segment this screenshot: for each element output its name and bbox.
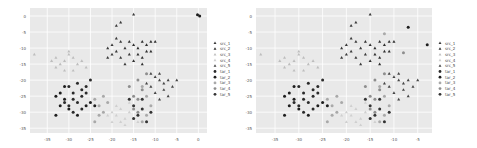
- data-point-tar_4: [141, 88, 144, 91]
- data-point-tar_1: [76, 82, 79, 85]
- data-point-tar_4: [369, 95, 372, 98]
- data-point-tar_1: [80, 88, 83, 91]
- data-point-tar_4: [373, 111, 376, 114]
- data-point-tar_2: [293, 98, 296, 101]
- data-point-tar_5: [383, 120, 386, 123]
- data-point-tar_1: [76, 101, 79, 104]
- data-point-tar_3: [383, 32, 386, 35]
- data-point-tar_2: [283, 95, 286, 98]
- legend-label-src_1: src_1: [445, 41, 456, 46]
- scatter-chart-right: -35-30-25-20-15-10-50-5-10-15-20-25-30-3…: [240, 0, 477, 148]
- data-point-tar_3: [326, 98, 329, 101]
- legend-marker-src_4: [439, 59, 442, 62]
- y-tick-label: -25: [19, 94, 26, 99]
- legend-marker-tar_4: [214, 87, 217, 90]
- x-tick-label: -20: [343, 137, 350, 142]
- data-point-tar_1: [321, 79, 324, 82]
- x-tick-label: -35: [44, 137, 51, 142]
- x-tick-label: -10: [152, 137, 159, 142]
- data-point-tar_4: [378, 88, 381, 91]
- legend-label-tar_5: tar_5: [445, 92, 456, 97]
- data-point-tar_1: [67, 85, 70, 88]
- data-point-tar_4: [145, 72, 148, 75]
- data-point-tar_5: [378, 98, 381, 101]
- data-point-tar_5: [132, 117, 135, 120]
- data-point-tar_1: [316, 85, 319, 88]
- legend-label-src_4: src_4: [220, 58, 231, 63]
- data-point-tar_4: [136, 98, 139, 101]
- data-point-tar_3: [331, 114, 334, 117]
- legend-marker-tar_5: [439, 93, 442, 96]
- data-point-tar_1: [67, 104, 70, 107]
- data-point-tar_2: [297, 107, 300, 110]
- data-point-tar_1: [63, 101, 66, 104]
- legend-label-src_2: src_2: [445, 46, 456, 51]
- data-point-tar_2: [321, 101, 324, 104]
- data-point-tar_3: [93, 98, 96, 101]
- data-point-tar_2: [85, 104, 88, 107]
- x-tick-label: -30: [296, 137, 303, 142]
- legend-label-tar_2: tar_2: [445, 75, 456, 80]
- y-tick-label: -35: [19, 126, 26, 131]
- x-tick-label: -10: [391, 137, 398, 142]
- data-point-tar_2: [76, 114, 79, 117]
- data-point-tar_3: [141, 85, 144, 88]
- data-point-tar_5: [369, 117, 372, 120]
- data-point-tar_1: [302, 91, 305, 94]
- legend: src_1src_2src_3src_4src_5tar_1tar_2tar_3…: [214, 41, 231, 97]
- data-point-tar_2: [407, 26, 410, 29]
- y-tick-label: -5: [248, 30, 252, 35]
- x-tick-label: -20: [109, 137, 116, 142]
- legend-label-tar_2: tar_2: [220, 75, 231, 80]
- data-point-tar_4: [373, 98, 376, 101]
- data-point-tar_3: [326, 120, 329, 123]
- data-point-tar_2: [63, 85, 66, 88]
- data-point-tar_5: [141, 107, 144, 110]
- data-point-tar_1: [297, 85, 300, 88]
- legend-label-src_4: src_4: [445, 58, 456, 63]
- legend-marker-tar_5: [214, 93, 217, 96]
- data-point-tar_5: [378, 107, 381, 110]
- legend-label-tar_1: tar_1: [220, 69, 231, 74]
- y-tick-label: -30: [19, 110, 26, 115]
- data-point-tar_1: [307, 101, 310, 104]
- x-tick-label: -25: [87, 137, 94, 142]
- legend-marker-src_3: [214, 53, 217, 56]
- scatter-plot-left-svg: -35-30-25-20-15-10-500-5-10-15-20-25-30-…: [0, 0, 240, 148]
- data-point-tar_3: [98, 104, 101, 107]
- legend-label-src_5: src_5: [220, 63, 231, 68]
- x-tick-label: -15: [367, 137, 374, 142]
- y-tick-label: 0: [23, 14, 26, 19]
- data-point-tar_5: [388, 111, 391, 114]
- data-point-tar_1: [80, 107, 83, 110]
- x-tick-label: -25: [319, 137, 326, 142]
- data-point-tar_2: [198, 15, 201, 18]
- data-point-tar_3: [102, 111, 105, 114]
- legend-marker-src_5: [214, 64, 217, 67]
- legend-marker-tar_2: [439, 76, 442, 79]
- legend: src_1src_2src_3src_4src_5tar_1tar_2tar_3…: [439, 41, 456, 97]
- data-point-tar_2: [89, 101, 92, 104]
- data-point-tar_4: [132, 107, 135, 110]
- data-point-tar_4: [136, 79, 139, 82]
- data-point-tar_3: [340, 101, 343, 104]
- data-point-tar_5: [132, 104, 135, 107]
- data-point-tar_2: [426, 43, 429, 46]
- x-tick-label: -5: [416, 137, 420, 142]
- legend-marker-tar_1: [439, 70, 442, 73]
- y-tick-label: -20: [245, 78, 252, 83]
- scatter-chart-left: -35-30-25-20-15-10-500-5-10-15-20-25-30-…: [0, 0, 240, 148]
- legend-label-src_1: src_1: [220, 41, 231, 46]
- x-tick-label: -5: [175, 137, 179, 142]
- data-point-tar_5: [136, 114, 139, 117]
- data-point-tar_3: [335, 95, 338, 98]
- data-point-tar_1: [85, 85, 88, 88]
- data-point-tar_1: [89, 79, 92, 82]
- data-point-tar_3: [149, 104, 152, 107]
- data-point-tar_5: [364, 98, 367, 101]
- legend-label-tar_4: tar_4: [220, 86, 231, 91]
- data-point-tar_2: [288, 91, 291, 94]
- data-point-tar_5: [145, 120, 148, 123]
- data-point-tar_4: [383, 72, 386, 75]
- data-point-tar_4: [136, 111, 139, 114]
